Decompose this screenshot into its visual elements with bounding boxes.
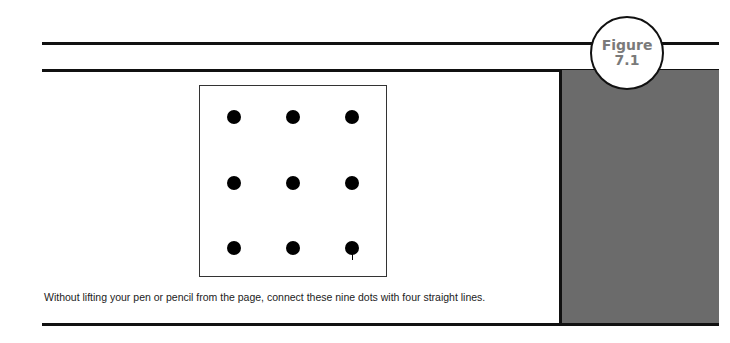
dot-3-1	[227, 241, 241, 255]
dot-3-3	[345, 241, 359, 255]
dot-1-3	[345, 110, 359, 124]
figure-badge: Figure 7.1	[590, 16, 664, 90]
dot-1-2	[286, 110, 300, 124]
pen-start-mark	[352, 254, 354, 260]
dot-2-2	[286, 176, 300, 190]
dot-2-3	[345, 176, 359, 190]
dot-3-2	[286, 241, 300, 255]
figure-number: 7.1	[615, 53, 640, 68]
dot-1-1	[227, 110, 241, 124]
figure-caption: Without lifting your pen or pencil from …	[44, 291, 485, 303]
side-panel	[559, 70, 719, 324]
figure-label: Figure	[602, 38, 653, 53]
bottom-rule	[42, 323, 719, 326]
dot-2-1	[227, 176, 241, 190]
